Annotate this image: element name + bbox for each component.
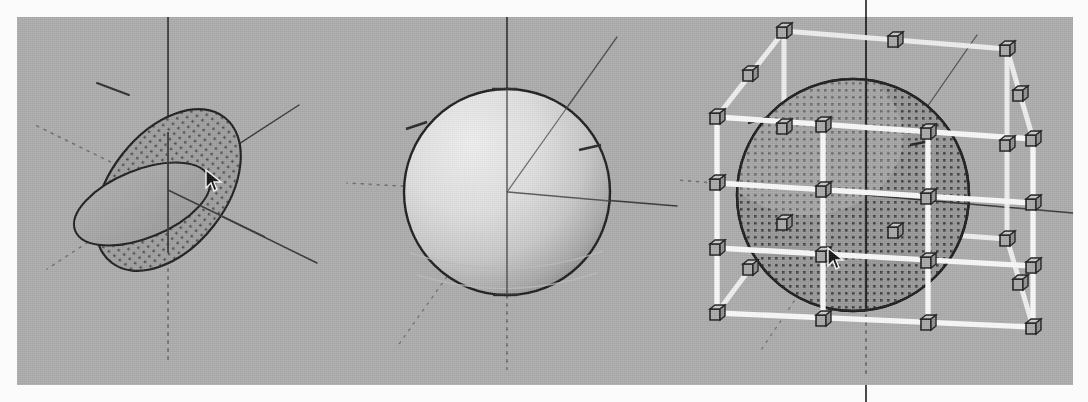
panel-left-content: [35, 17, 317, 362]
lattice-handle: [816, 311, 831, 326]
lattice-handle: [1000, 41, 1015, 56]
arrow-cursor: [203, 169, 225, 193]
lattice-handle: [816, 182, 831, 197]
lattice-handle: [743, 260, 758, 275]
screenshot-canvas: Deformed ellipsoid Smooth shaded sphere …: [0, 0, 1088, 402]
lattice-handle: [1013, 275, 1028, 290]
lattice-handle: [777, 23, 792, 38]
viewport-scene: [17, 17, 1073, 385]
lattice-handle: [921, 124, 936, 139]
lattice-handle: [921, 189, 936, 204]
lattice-handle: [921, 315, 936, 330]
lattice-handle: [777, 119, 792, 134]
lattice-handle: [816, 117, 831, 132]
lattice-handle: [1000, 136, 1015, 151]
lattice-handle: [710, 240, 725, 255]
panel-middle-content: [347, 17, 677, 369]
lattice-handle: [710, 175, 725, 190]
lattice-handle: [921, 253, 936, 268]
panel-right-content: [677, 17, 1073, 377]
arrow-cursor: [825, 247, 847, 271]
viewport-3d[interactable]: [17, 17, 1073, 385]
lattice-handle: [888, 223, 903, 238]
lattice-handle: [1026, 195, 1041, 210]
lattice-handle: [710, 305, 725, 320]
lattice-handle: [1026, 258, 1041, 273]
lattice-handle: [710, 109, 725, 124]
lattice-handle: [1013, 86, 1028, 101]
lattice-handle: [743, 66, 758, 81]
lattice-handle: [888, 32, 903, 47]
lattice-handle: [777, 215, 792, 230]
lattice-handle: [1026, 131, 1041, 146]
lattice-handle: [1000, 231, 1015, 246]
lattice-handle: [1026, 319, 1041, 334]
